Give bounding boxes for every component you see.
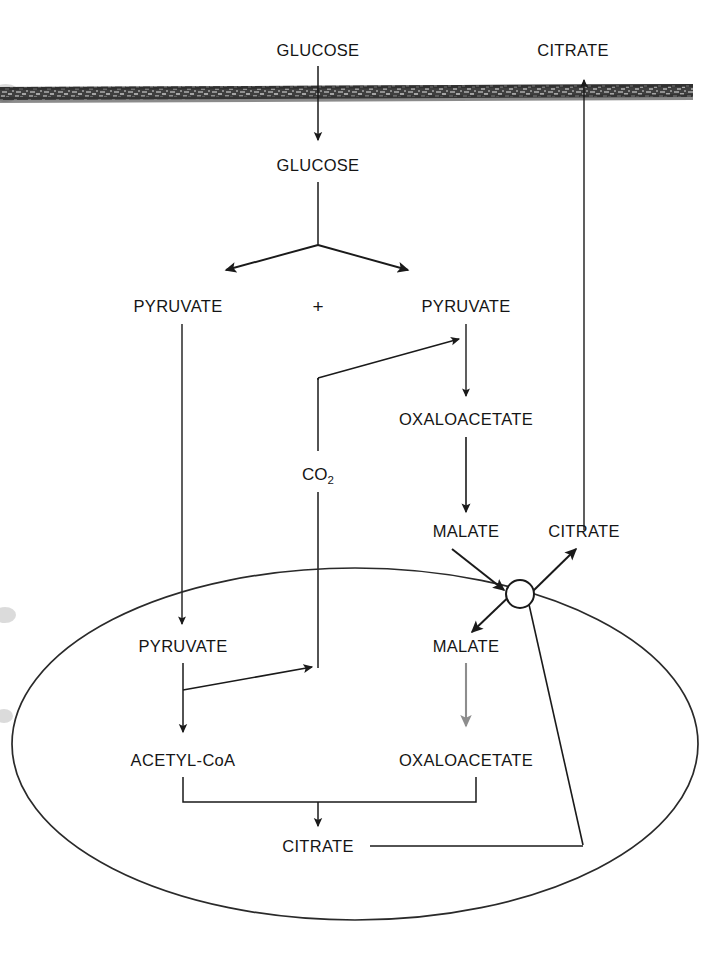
arrow-condensation-to-citrate bbox=[183, 777, 476, 826]
label-glucose-outside: GLUCOSE bbox=[277, 41, 360, 59]
label-pyruvate-left: PYRUVATE bbox=[134, 297, 223, 315]
label-oxaloacetate-cytosol: OXALOACETATE bbox=[399, 410, 533, 428]
label-citrate-outside: CITRATE bbox=[537, 41, 608, 59]
label-malate-cytosol: MALATE bbox=[433, 522, 500, 540]
label-citrate-matrix: CITRATE bbox=[282, 837, 353, 855]
label-citrate-cytosol: CITRATE bbox=[548, 522, 619, 540]
mitochondrion-outline bbox=[12, 568, 698, 920]
label-malate-matrix: MALATE bbox=[433, 637, 500, 655]
label-oxaloacetate-matrix: OXALOACETATE bbox=[399, 751, 533, 769]
arrow-co2-to-pyruvate bbox=[318, 339, 459, 380]
citrate-malate-carrier bbox=[452, 549, 583, 845]
pathway-figure-canvas: GLUCOSE CITRATE GLUCOSE PYRUVATE + PYRUV… bbox=[0, 0, 723, 953]
label-pyruvate-matrix: PYRUVATE bbox=[139, 637, 228, 655]
plasma-membrane-band bbox=[0, 84, 693, 103]
label-co2: CO2 bbox=[302, 465, 334, 486]
pathway-diagram: GLUCOSE CITRATE GLUCOSE PYRUVATE + PYRUV… bbox=[0, 0, 723, 953]
carrier-circle bbox=[506, 580, 534, 608]
label-plus-sign: + bbox=[312, 296, 323, 317]
arrow-glycolysis-split bbox=[226, 182, 408, 270]
scan-artifacts bbox=[0, 84, 20, 723]
label-pyruvate-right: PYRUVATE bbox=[422, 297, 511, 315]
label-acetyl-coa: ACETYL-CoA bbox=[131, 751, 236, 769]
arrow-pyruvate-decarboxylation bbox=[183, 667, 312, 690]
label-glucose-inside: GLUCOSE bbox=[277, 156, 360, 174]
